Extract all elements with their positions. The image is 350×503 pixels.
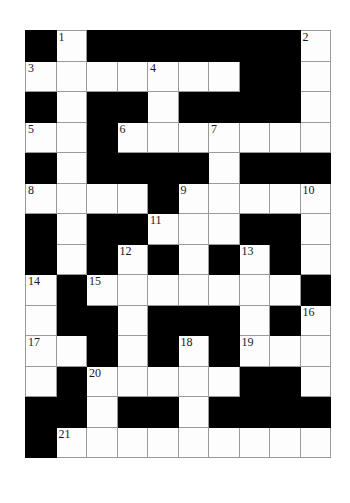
letter-cell[interactable]	[239, 122, 270, 153]
clue-number: 12	[120, 245, 132, 258]
block-cell	[148, 183, 179, 214]
letter-cell[interactable]: 1	[56, 31, 87, 62]
block-cell	[300, 153, 331, 184]
letter-cell[interactable]	[300, 244, 331, 275]
letter-cell[interactable]	[300, 366, 331, 397]
letter-cell[interactable]: 8	[26, 183, 57, 214]
letter-cell[interactable]	[209, 427, 240, 458]
letter-cell[interactable]	[148, 275, 179, 306]
letter-cell[interactable]	[148, 92, 179, 123]
letter-cell[interactable]: 7	[209, 122, 240, 153]
letter-cell[interactable]	[56, 336, 87, 367]
letter-cell[interactable]	[239, 183, 270, 214]
block-cell	[239, 92, 270, 123]
crossword-grid[interactable]: 123456789101112131415161718192021	[25, 30, 331, 458]
letter-cell[interactable]	[209, 153, 240, 184]
letter-cell[interactable]: 12	[117, 244, 148, 275]
letter-cell[interactable]	[300, 92, 331, 123]
letter-cell[interactable]	[178, 214, 209, 245]
letter-cell[interactable]	[178, 244, 209, 275]
letter-cell[interactable]	[270, 275, 301, 306]
letter-cell[interactable]	[56, 92, 87, 123]
letter-cell[interactable]: 21	[56, 427, 87, 458]
letter-cell[interactable]	[87, 397, 118, 428]
letter-cell[interactable]	[239, 427, 270, 458]
letter-cell[interactable]	[270, 427, 301, 458]
letter-cell[interactable]	[117, 366, 148, 397]
letter-cell[interactable]	[87, 427, 118, 458]
letter-cell[interactable]	[300, 122, 331, 153]
letter-cell[interactable]	[178, 61, 209, 92]
letter-cell[interactable]	[148, 122, 179, 153]
letter-cell[interactable]: 4	[148, 61, 179, 92]
letter-cell[interactable]: 14	[26, 275, 57, 306]
clue-number: 16	[303, 306, 315, 319]
letter-cell[interactable]	[56, 214, 87, 245]
letter-cell[interactable]	[178, 397, 209, 428]
letter-cell[interactable]	[209, 214, 240, 245]
letter-cell[interactable]	[178, 122, 209, 153]
letter-cell[interactable]	[178, 427, 209, 458]
letter-cell[interactable]	[56, 61, 87, 92]
letter-cell[interactable]	[239, 305, 270, 336]
clue-number: 2	[303, 31, 309, 44]
letter-cell[interactable]	[209, 366, 240, 397]
letter-cell[interactable]	[148, 366, 179, 397]
letter-cell[interactable]: 20	[87, 366, 118, 397]
letter-cell[interactable]	[117, 427, 148, 458]
letter-cell[interactable]: 6	[117, 122, 148, 153]
crossword-row: 567	[26, 122, 331, 153]
letter-cell[interactable]: 10	[300, 183, 331, 214]
crossword-row: 12	[26, 31, 331, 62]
letter-cell[interactable]	[117, 336, 148, 367]
letter-cell[interactable]: 18	[178, 336, 209, 367]
letter-cell[interactable]	[56, 183, 87, 214]
letter-cell[interactable]	[209, 183, 240, 214]
crossword-row: 1213	[26, 244, 331, 275]
letter-cell[interactable]	[178, 275, 209, 306]
letter-cell[interactable]	[26, 366, 57, 397]
letter-cell[interactable]: 11	[148, 214, 179, 245]
block-cell	[87, 305, 118, 336]
block-cell	[26, 244, 57, 275]
letter-cell[interactable]	[56, 122, 87, 153]
letter-cell[interactable]	[239, 275, 270, 306]
letter-cell[interactable]: 15	[87, 275, 118, 306]
letter-cell[interactable]	[87, 61, 118, 92]
letter-cell[interactable]: 17	[26, 336, 57, 367]
letter-cell[interactable]	[87, 183, 118, 214]
letter-cell[interactable]	[117, 61, 148, 92]
letter-cell[interactable]	[300, 214, 331, 245]
letter-cell[interactable]: 16	[300, 305, 331, 336]
letter-cell[interactable]	[270, 336, 301, 367]
letter-cell[interactable]	[117, 275, 148, 306]
block-cell	[270, 305, 301, 336]
block-cell	[87, 92, 118, 123]
letter-cell[interactable]: 5	[26, 122, 57, 153]
letter-cell[interactable]	[209, 61, 240, 92]
block-cell	[87, 153, 118, 184]
letter-cell[interactable]	[209, 275, 240, 306]
letter-cell[interactable]	[300, 427, 331, 458]
block-cell	[87, 336, 118, 367]
block-cell	[56, 275, 87, 306]
block-cell	[56, 366, 87, 397]
letter-cell[interactable]: 2	[300, 31, 331, 62]
letter-cell[interactable]: 19	[239, 336, 270, 367]
letter-cell[interactable]	[300, 336, 331, 367]
block-cell	[148, 244, 179, 275]
letter-cell[interactable]	[56, 153, 87, 184]
letter-cell[interactable]	[270, 122, 301, 153]
letter-cell[interactable]	[300, 61, 331, 92]
letter-cell[interactable]	[56, 244, 87, 275]
letter-cell[interactable]	[270, 183, 301, 214]
letter-cell[interactable]	[117, 183, 148, 214]
letter-cell[interactable]	[26, 305, 57, 336]
block-cell	[239, 214, 270, 245]
letter-cell[interactable]	[178, 366, 209, 397]
letter-cell[interactable]	[148, 427, 179, 458]
letter-cell[interactable]	[117, 305, 148, 336]
letter-cell[interactable]: 9	[178, 183, 209, 214]
letter-cell[interactable]: 3	[26, 61, 57, 92]
letter-cell[interactable]: 13	[239, 244, 270, 275]
